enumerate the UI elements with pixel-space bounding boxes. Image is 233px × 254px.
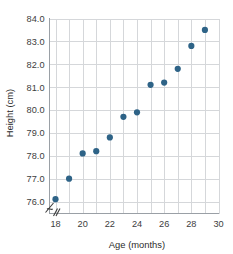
data-point <box>66 176 72 182</box>
y-tick-label: 80.0 <box>27 105 45 115</box>
x-tick-label: 30 <box>213 219 223 229</box>
x-tick-label: 28 <box>186 219 196 229</box>
x-tick-label: 20 <box>78 219 88 229</box>
data-point <box>134 109 140 115</box>
scatter-chart: 18202224262830 76.077.078.079.080.081.08… <box>0 0 233 254</box>
x-tick-labels: 18202224262830 <box>50 219 223 229</box>
y-tick-label: 79.0 <box>27 128 45 138</box>
data-point <box>120 114 126 120</box>
x-tick-label: 18 <box>50 219 60 229</box>
data-point <box>52 196 58 202</box>
y-tick-label: 84.0 <box>27 14 45 24</box>
y-tick-label: 76.0 <box>27 197 45 207</box>
data-point <box>107 134 113 140</box>
x-tick-label: 26 <box>159 219 169 229</box>
data-point <box>188 43 194 49</box>
x-tick-label: 24 <box>132 219 142 229</box>
y-tick-labels: 76.077.078.079.080.081.082.083.084.0 <box>27 14 45 207</box>
x-axis-title: Age (months) <box>109 239 165 250</box>
data-point <box>202 27 208 33</box>
y-axis-title: Height (cm) <box>4 89 15 137</box>
data-points <box>52 27 208 202</box>
y-tick-label: 83.0 <box>27 37 45 47</box>
data-point <box>80 150 86 156</box>
data-point <box>175 66 181 72</box>
data-point <box>147 82 153 88</box>
plot-canvas: 18202224262830 76.077.078.079.080.081.08… <box>0 0 233 254</box>
y-tick-label: 78.0 <box>27 151 45 161</box>
gridlines-vertical <box>57 19 220 214</box>
data-point <box>161 79 167 85</box>
y-tick-label: 81.0 <box>27 83 45 93</box>
x-tick-label: 22 <box>105 219 115 229</box>
y-tick-label: 82.0 <box>27 60 45 70</box>
y-tick-label: 77.0 <box>27 174 45 184</box>
data-point <box>93 148 99 154</box>
